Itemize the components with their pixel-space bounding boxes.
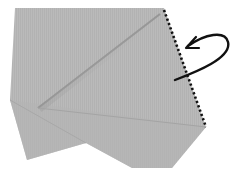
origami-diagram <box>0 0 231 173</box>
